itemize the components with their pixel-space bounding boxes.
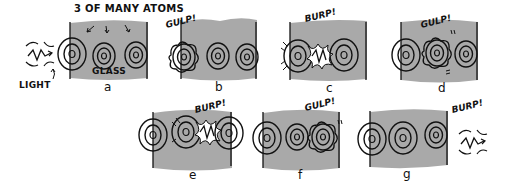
light-burst-icon <box>459 130 487 154</box>
panel-c <box>281 20 367 81</box>
panel-f <box>253 110 342 171</box>
light-burst-icon <box>26 42 54 66</box>
panel-a <box>26 20 148 80</box>
panel-letter-b: b <box>215 80 223 94</box>
panel-g <box>358 109 487 168</box>
panel-e <box>139 110 243 171</box>
light-label: LIGHT <box>19 80 51 90</box>
glass-label: GLASS <box>92 66 126 76</box>
panel-d <box>392 20 478 83</box>
panel-letter-f: f <box>298 168 302 181</box>
panel-b <box>169 18 258 80</box>
panel-letter-a: a <box>104 80 111 94</box>
panel-letter-d: d <box>438 81 446 95</box>
panel-letter-g: g <box>403 167 411 181</box>
atoms-caption: 3 OF MANY ATOMS <box>74 3 184 14</box>
panel-letter-e: e <box>189 168 196 181</box>
panel-letter-c: c <box>326 81 333 95</box>
arrow-icon <box>51 69 55 79</box>
